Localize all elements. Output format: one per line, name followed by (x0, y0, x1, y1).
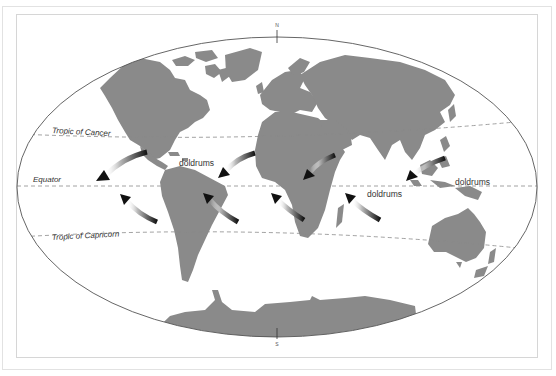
arctic-islands (172, 50, 230, 82)
north-label: N (275, 22, 279, 28)
world-map: N S Tropic of Cancer Equator Tropic of C… (0, 0, 556, 376)
new-guinea (455, 186, 482, 200)
arrow-ne-atlantic (218, 153, 255, 178)
tasmania (456, 262, 462, 268)
doldrums-label-pacific: doldrums (455, 177, 490, 187)
arrow-se-pacific (120, 194, 157, 222)
south-label: S (275, 341, 279, 347)
doldrums-label-americas: doldrums (179, 158, 214, 168)
japan (448, 104, 456, 122)
greenland (225, 48, 262, 82)
north-america (100, 58, 210, 160)
tropic-of-capricorn-label: Tropic of Capricorn (52, 229, 120, 242)
philippines (440, 136, 450, 152)
british-isles (256, 82, 264, 94)
australia (428, 208, 486, 262)
equator-label: Equator (33, 175, 61, 184)
doldrums-label-indian: doldrums (367, 189, 402, 199)
continents (100, 48, 496, 345)
arrow-ne-americas (96, 152, 147, 181)
madagascar (336, 204, 344, 228)
south-america (160, 166, 228, 282)
tropic-of-cancer-label: Tropic of Cancer (52, 126, 111, 138)
